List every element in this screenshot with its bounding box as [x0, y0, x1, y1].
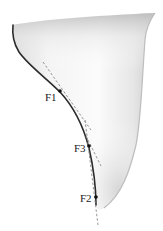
point-f2-label: F2 [80, 192, 92, 204]
point-f1-label: F1 [45, 91, 57, 103]
point-f2-marker [94, 195, 98, 199]
point-f3-label: F3 [74, 142, 86, 154]
tooth-tip-shade [13, 13, 155, 210]
diagram-canvas: F1 F3 F2 [0, 0, 163, 231]
point-f1-marker [58, 89, 62, 93]
tooth-diagram: F1 F3 F2 [0, 0, 163, 231]
point-f3-marker [87, 144, 91, 148]
